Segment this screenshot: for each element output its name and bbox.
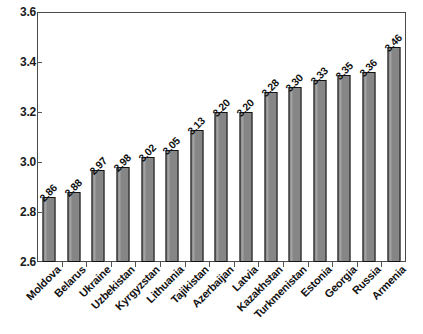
bar-highlight: [69, 193, 71, 261]
bars-layer: [37, 12, 406, 262]
bar-highlight: [266, 93, 268, 261]
x-axis-tick-mark: [185, 262, 186, 267]
bar[interactable]: [215, 112, 228, 262]
bar[interactable]: [43, 197, 56, 262]
bar-highlight: [94, 171, 96, 262]
bar[interactable]: [289, 87, 302, 262]
x-axis-tick-mark: [381, 262, 382, 267]
bar[interactable]: [264, 92, 277, 262]
bar-slot: [357, 12, 382, 262]
y-axis-tick-label: 2.8: [2, 206, 36, 218]
x-axis-tick-mark: [234, 262, 235, 267]
x-axis-tick-mark: [357, 262, 358, 267]
bar-slot: [283, 12, 308, 262]
y-axis-tick-labels: 3.63.43.23.02.82.6: [0, 0, 36, 334]
bar-slot: [37, 12, 62, 262]
bar-highlight: [340, 76, 342, 262]
bar-highlight: [168, 151, 170, 262]
x-axis-tick-mark: [160, 262, 161, 267]
bar[interactable]: [338, 75, 351, 263]
y-axis-tick-label: 3.0: [2, 156, 36, 168]
x-axis-tick-mark: [332, 262, 333, 267]
y-axis-tick-label: 2.6: [2, 256, 36, 268]
bar-highlight: [291, 88, 293, 261]
bar-slot: [62, 12, 87, 262]
bar[interactable]: [240, 112, 253, 262]
bar-slot: [258, 12, 283, 262]
bar-highlight: [242, 113, 244, 261]
bar[interactable]: [117, 167, 130, 262]
bar[interactable]: [313, 80, 326, 263]
bar-slot: [308, 12, 333, 262]
y-axis-tick-mark: [37, 212, 42, 213]
bar[interactable]: [387, 47, 400, 262]
bar[interactable]: [141, 157, 154, 262]
bar[interactable]: [363, 72, 376, 262]
x-axis-tick-mark: [283, 262, 284, 267]
bar-highlight: [119, 168, 121, 261]
bar[interactable]: [190, 130, 203, 263]
y-axis-tick-mark: [37, 112, 42, 113]
bar[interactable]: [67, 192, 80, 262]
x-axis-tick-mark: [209, 262, 210, 267]
bar-highlight: [143, 158, 145, 261]
bar-highlight: [45, 198, 47, 261]
x-axis-tick-mark: [135, 262, 136, 267]
bar-chart: 3.63.43.23.02.82.6 MoldovaBelarusUkraine…: [0, 0, 423, 334]
bar-slot: [185, 12, 210, 262]
bar-highlight: [365, 73, 367, 261]
bar-highlight: [389, 48, 391, 261]
x-axis-category-labels: MoldovaBelarusUkraineUzbekistanKyrgyzsta…: [37, 264, 406, 334]
bar-highlight: [315, 81, 317, 262]
bar[interactable]: [166, 150, 179, 263]
y-axis-tick-mark: [37, 62, 42, 63]
bar-highlight: [192, 131, 194, 262]
bar-slot: [332, 12, 357, 262]
y-axis-tick-label: 3.4: [2, 56, 36, 68]
x-axis-tick-mark: [258, 262, 259, 267]
bar-highlight: [217, 113, 219, 261]
bar-slot: [111, 12, 136, 262]
bar-slot: [234, 12, 259, 262]
y-axis-tick-label: 3.2: [2, 106, 36, 118]
x-axis-tick-mark: [111, 262, 112, 267]
x-axis-tick-mark: [86, 262, 87, 267]
bar-slot: [209, 12, 234, 262]
bar-slot: [86, 12, 111, 262]
y-axis-tick-label: 3.6: [2, 6, 36, 18]
x-axis-tick-mark: [308, 262, 309, 267]
x-axis-tick-mark: [62, 262, 63, 267]
y-axis-tick-mark: [37, 162, 42, 163]
bar-slot: [135, 12, 160, 262]
bar[interactable]: [92, 170, 105, 263]
